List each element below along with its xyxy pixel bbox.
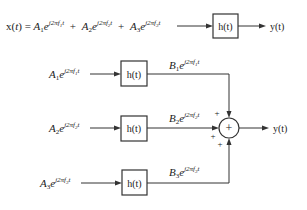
branch-1-input-label: A1ej2πf1t <box>48 67 81 82</box>
branch-1-block-label: h(t) <box>127 69 141 81</box>
arrowhead-icon <box>212 126 219 131</box>
branch-3-output-label: B3ej2πf3t <box>169 165 201 180</box>
arrowhead-icon <box>114 126 121 131</box>
branch-3-input-label: A3ej2πf3t <box>39 176 72 191</box>
arrowhead-icon <box>227 111 232 118</box>
arrowhead-icon <box>114 72 121 77</box>
arrowhead-icon <box>115 181 122 186</box>
branch-2-output-label: B2ej2πf2t <box>169 111 201 126</box>
block-diagram: x(t) = A1ej2πf1t + A2ej2πf2t + A3ej2πf3t… <box>0 0 307 210</box>
summer-output-label: y(t) <box>273 123 287 135</box>
arrowhead-icon <box>206 24 213 29</box>
branch-2-block-label: h(t) <box>127 123 141 135</box>
summer-sign-left: + <box>210 131 215 141</box>
summer-sign-top: + <box>214 108 219 118</box>
top-output-label: y(t) <box>270 21 284 33</box>
top-block-label: h(t) <box>218 21 232 33</box>
branch-3-block-label: h(t) <box>127 178 141 190</box>
top-input-label: x(t) = A1ej2πf1t + A2ej2πf2t + A3ej2πf3t <box>6 15 162 34</box>
branch-1-output-label: B1ej2πf1t <box>169 58 201 73</box>
summer-plus-icon: + <box>226 121 233 135</box>
branch-2-input-label: A2ej2πf2t <box>48 121 81 136</box>
arrowhead-icon <box>227 138 232 145</box>
arrowhead-icon <box>262 126 269 131</box>
arrowhead-icon <box>259 24 266 29</box>
summer-sign-bottom: + <box>217 139 222 149</box>
